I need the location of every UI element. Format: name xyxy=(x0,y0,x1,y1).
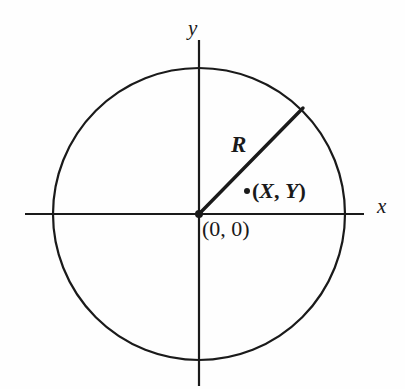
diagram-canvas xyxy=(0,0,405,389)
point-y-variable: Y xyxy=(285,178,298,203)
circle-diagram-figure: y x R (X, Y) (0, 0) xyxy=(0,0,405,389)
origin-coordinates-label: (0, 0) xyxy=(202,218,250,240)
radius-label: R xyxy=(231,133,246,156)
point-x-variable: X xyxy=(259,178,274,203)
point-comma: , xyxy=(274,178,285,203)
point-coordinates-label: (X, Y) xyxy=(252,180,306,202)
y-axis-label: y xyxy=(188,18,197,39)
point-close-paren: ) xyxy=(298,178,305,203)
point-marker-dot xyxy=(244,188,250,194)
x-axis-label: x xyxy=(377,196,386,217)
